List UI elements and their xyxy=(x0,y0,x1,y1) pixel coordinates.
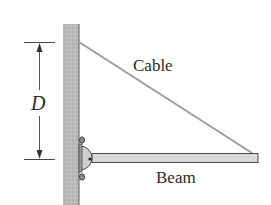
beam xyxy=(92,154,258,163)
bolt-top-icon xyxy=(79,137,84,143)
pin-support xyxy=(79,137,92,180)
arrow-down-icon xyxy=(37,150,43,159)
arrow-up-icon xyxy=(37,43,43,52)
bolt-bottom-icon xyxy=(79,174,84,180)
diagram-canvas: Cable Beam D xyxy=(0,0,271,205)
beam-label: Beam xyxy=(156,169,196,186)
cable-label: Cable xyxy=(133,57,173,74)
wall xyxy=(63,24,79,205)
pin-icon xyxy=(88,157,91,160)
dimension-label: D xyxy=(31,93,45,113)
